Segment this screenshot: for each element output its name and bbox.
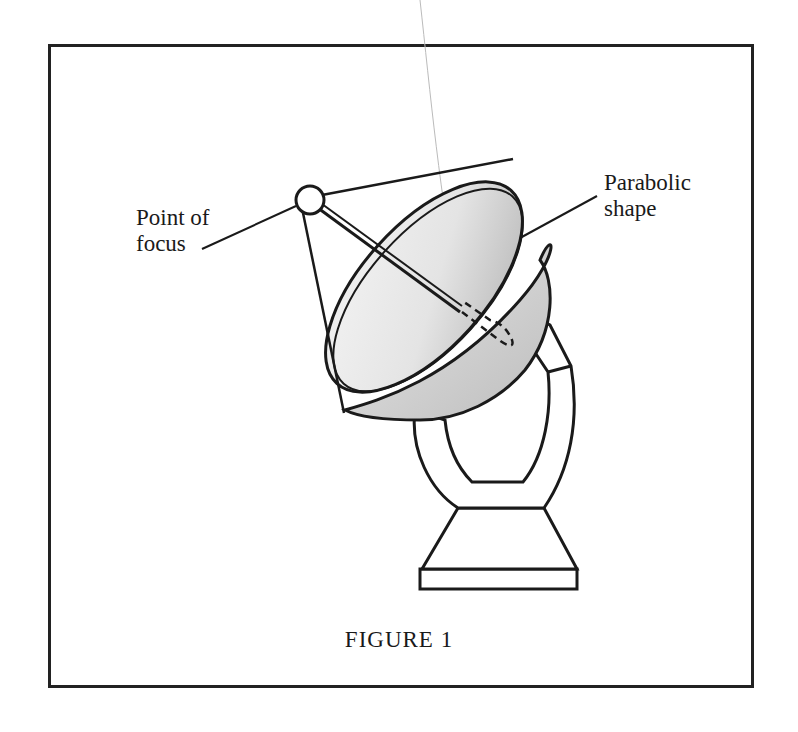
parabolic-leader-line bbox=[520, 196, 597, 238]
parabolic-shape-label: Parabolic shape bbox=[604, 170, 691, 222]
figure-caption: FIGURE 1 bbox=[0, 627, 798, 653]
point-of-focus-label: Point of focus bbox=[136, 205, 209, 257]
focus-leader-line bbox=[202, 206, 296, 249]
antenna-base bbox=[420, 508, 577, 589]
dish-antenna-illustration bbox=[0, 0, 798, 732]
focus-point-icon bbox=[296, 186, 324, 214]
